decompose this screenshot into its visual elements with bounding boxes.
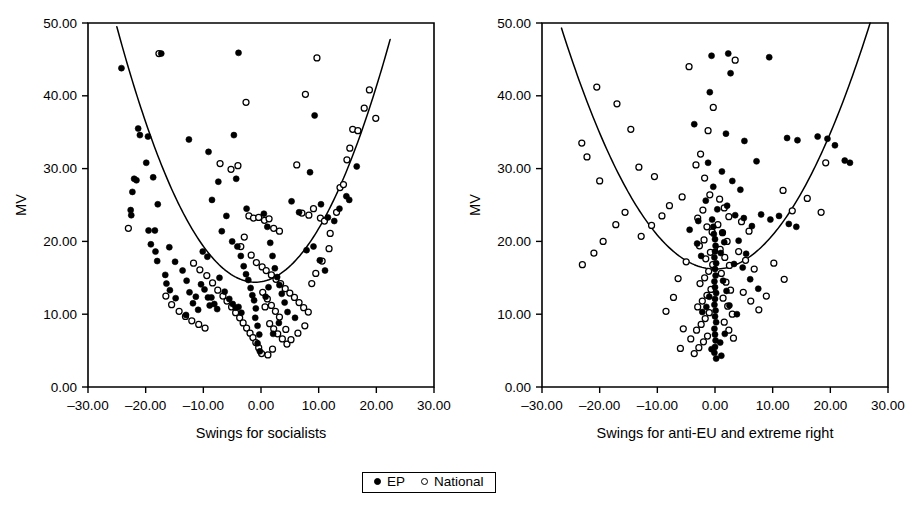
data-point-ep: [267, 240, 273, 246]
data-point-national: [696, 345, 702, 351]
data-point-ep: [346, 197, 352, 203]
data-point-ep: [740, 265, 746, 271]
data-point-ep: [264, 224, 270, 230]
chart-panel-left: 0.0010.0020.0030.0040.0050.00–30.00–20.0…: [0, 0, 454, 507]
data-point-ep: [687, 227, 693, 233]
data-point-national: [263, 268, 269, 274]
data-point-national: [614, 101, 620, 107]
y-tick-label: 40.00: [43, 88, 77, 103]
data-point-ep: [155, 201, 161, 207]
data-point-ep: [186, 136, 192, 142]
data-point-national: [276, 314, 282, 320]
data-point-national: [125, 225, 131, 231]
data-point-national: [204, 273, 210, 279]
data-point-ep: [289, 198, 295, 204]
data-point-national: [700, 207, 706, 213]
data-point-ep: [236, 304, 242, 310]
data-point-ep: [137, 132, 143, 138]
data-point-ep: [786, 221, 792, 227]
data-point-national: [197, 267, 203, 273]
data-point-ep: [694, 241, 700, 247]
data-point-ep: [180, 268, 186, 274]
data-point-national: [302, 323, 308, 329]
data-point-ep: [705, 160, 711, 166]
data-point-ep: [712, 332, 718, 338]
data-point-ep: [754, 158, 760, 164]
data-point-national: [649, 222, 655, 228]
data-point-ep: [747, 276, 753, 282]
data-point-national: [265, 352, 271, 358]
data-point-national: [296, 300, 302, 306]
data-point-national: [698, 151, 704, 157]
data-point-ep: [713, 260, 719, 266]
data-point-national: [272, 308, 278, 314]
data-point-ep: [145, 134, 151, 140]
data-point-ep: [336, 206, 342, 212]
data-point-ep: [719, 169, 725, 175]
data-point-national: [717, 196, 723, 202]
data-point-ep: [712, 296, 718, 302]
data-point-ep: [755, 286, 761, 292]
data-point-ep: [743, 251, 749, 257]
data-point-national: [613, 222, 619, 228]
data-point-national: [823, 160, 829, 166]
data-point-national: [732, 57, 738, 63]
data-point-national: [597, 178, 603, 184]
data-point-national: [241, 234, 247, 240]
data-point-ep: [257, 348, 263, 354]
figure-container: 0.0010.0020.0030.0040.0050.00–30.00–20.0…: [0, 0, 908, 507]
data-point-ep: [741, 138, 747, 144]
data-point-national: [720, 295, 726, 301]
data-point-ep: [163, 281, 169, 287]
quadratic-fit-curve: [117, 27, 390, 282]
x-tick-label: 30.00: [871, 398, 905, 413]
data-point-national: [283, 326, 289, 332]
x-tick-label: 20.00: [359, 398, 393, 413]
data-point-national: [191, 260, 197, 266]
data-point-ep: [238, 310, 244, 316]
data-point-ep: [214, 306, 220, 312]
data-point-ep: [736, 238, 742, 244]
data-point-ep: [724, 203, 730, 209]
data-point-ep: [234, 244, 240, 250]
data-point-ep: [734, 311, 740, 317]
data-point-ep: [706, 294, 712, 300]
data-point-ep: [317, 257, 323, 263]
data-point-ep: [714, 206, 720, 212]
data-point-ep: [318, 201, 324, 207]
data-point-national: [302, 91, 308, 97]
data-point-national: [291, 294, 297, 300]
data-point-ep: [148, 241, 154, 247]
data-point-ep: [150, 174, 156, 180]
data-point-national: [361, 105, 367, 111]
y-tick-label: 10.00: [497, 307, 531, 322]
data-point-ep: [255, 340, 261, 346]
data-point-ep: [325, 214, 331, 220]
data-point-ep: [255, 323, 261, 329]
data-point-national: [256, 214, 262, 220]
data-point-ep: [241, 263, 247, 269]
data-point-national: [718, 270, 724, 276]
data-point-ep: [723, 131, 729, 137]
data-point-national: [679, 194, 685, 200]
data-point-ep: [270, 253, 276, 259]
data-point-ep: [304, 247, 310, 253]
data-point-ep: [146, 227, 152, 233]
data-point-ep: [713, 308, 719, 314]
data-point-national: [243, 99, 249, 105]
data-point-national: [683, 259, 689, 265]
data-point-ep: [118, 65, 124, 71]
data-point-ep: [195, 307, 201, 313]
data-point-ep: [129, 189, 135, 195]
data-point-ep: [190, 300, 196, 306]
data-point-national: [313, 270, 319, 276]
legend: EP National: [362, 472, 496, 493]
data-point-ep: [143, 160, 149, 166]
data-point-national: [694, 327, 700, 333]
data-point-national: [270, 346, 276, 352]
data-point-ep: [279, 291, 285, 297]
open-circle-icon: [421, 478, 428, 485]
x-tick-label: –10.00: [637, 398, 678, 413]
data-point-ep: [238, 253, 244, 259]
data-point-national: [215, 287, 221, 293]
